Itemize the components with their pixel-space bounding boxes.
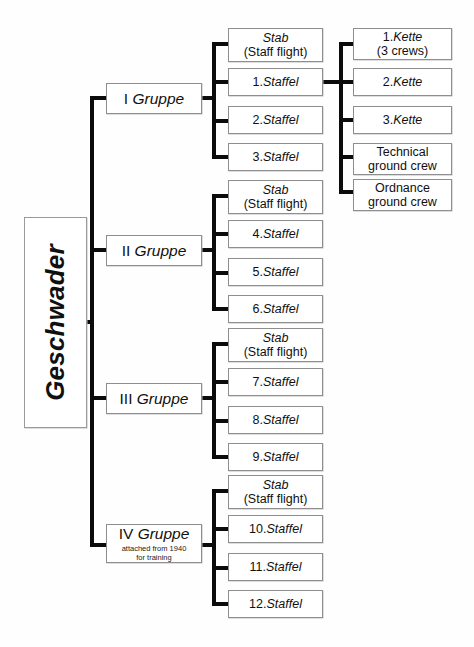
node-staffel-10-num: 10.: [249, 522, 266, 536]
node-iv-stab-line2: (Staff flight): [244, 492, 308, 506]
node-ordnance-ground-crew-line1: Ordnance: [375, 181, 430, 195]
node-staffel-3-num: 3.: [253, 150, 263, 164]
node-ordnance-ground-crew[interactable]: Ordnance ground crew: [353, 179, 452, 211]
node-geschwader-label: Geschwader: [40, 244, 71, 401]
node-staffel-9[interactable]: 9.Staffel: [228, 443, 323, 471]
node-gruppe-ii[interactable]: II Gruppe: [106, 235, 202, 266]
node-geschwader[interactable]: Geschwader: [24, 217, 87, 428]
connector-main-spine: [90, 97, 94, 547]
node-staffel-3-name: Staffel: [263, 150, 298, 164]
node-ii-stab-line1: Stab: [263, 183, 289, 197]
node-staffel-3-label: 3.Staffel: [253, 150, 299, 164]
node-staffel-6-name: Staffel: [263, 302, 298, 316]
node-gruppe-ii-roman: II: [122, 242, 131, 259]
node-ordnance-ground-crew-line2: ground crew: [368, 195, 437, 209]
node-kette-3-title: 3.Kette: [383, 113, 423, 127]
node-kette-2-title: 2.Kette: [383, 75, 423, 89]
node-staffel-5-name: Staffel: [263, 265, 298, 279]
node-staffel-5-num: 5.: [253, 265, 263, 279]
node-staffel-7-num: 7.: [253, 375, 263, 389]
connector-staffel-out: [321, 80, 341, 84]
node-gruppe-iii-title: III Gruppe: [120, 390, 189, 408]
node-staffel-7-label: 7.Staffel: [253, 375, 299, 389]
node-staffel-7[interactable]: 7.Staffel: [228, 368, 323, 396]
node-staffel-1-num: 1.: [253, 75, 263, 89]
node-kette-2-name: Kette: [393, 75, 422, 89]
node-gruppe-iv-roman: IV: [119, 525, 134, 542]
node-staffel-3[interactable]: 3.Staffel: [228, 143, 323, 171]
node-staffel-7-name: Staffel: [263, 375, 298, 389]
node-kette-2[interactable]: 2.Kette: [353, 68, 452, 96]
node-staffel-6-num: 6.: [253, 302, 263, 316]
node-iv-stab-line1: Stab: [263, 478, 289, 492]
node-kette-1-num: 1.: [383, 30, 393, 44]
node-ii-stab-line2: (Staff flight): [244, 197, 308, 211]
node-gruppe-ii-title: II Gruppe: [122, 242, 187, 260]
node-iv-stab[interactable]: Stab (Staff flight): [228, 475, 323, 509]
node-gruppe-iv-note-line2: for training: [122, 553, 187, 563]
node-gruppe-iv-word: Gruppe: [138, 525, 190, 542]
node-iii-stab[interactable]: Stab (Staff flight): [228, 328, 323, 362]
node-staffel-8-label: 8.Staffel: [253, 413, 299, 427]
node-i-stab-line2: (Staff flight): [244, 45, 308, 59]
node-staffel-11-label: 11.Staffel: [250, 560, 302, 574]
node-staffel-4-name: Staffel: [263, 227, 298, 241]
node-gruppe-i-word: Gruppe: [132, 90, 184, 107]
node-staffel-10[interactable]: 10.Staffel: [228, 515, 323, 543]
node-staffel-6[interactable]: 6.Staffel: [228, 295, 323, 323]
node-kette-3-num: 3.: [383, 113, 393, 127]
node-technical-ground-crew-line1: Technical: [376, 145, 428, 159]
node-kette-1[interactable]: 1.Kette (3 crews): [353, 28, 452, 60]
node-staffel-4-num: 4.: [253, 227, 263, 241]
node-gruppe-iii-roman: III: [120, 390, 133, 407]
node-staffel-2-name: Staffel: [263, 113, 298, 127]
connector-gruppe-iii-spine: [212, 342, 216, 459]
node-ii-stab[interactable]: Stab (Staff flight): [228, 180, 323, 214]
node-staffel-4[interactable]: 4.Staffel: [228, 220, 323, 248]
node-staffel-11[interactable]: 11.Staffel: [228, 553, 323, 581]
node-staffel-4-label: 4.Staffel: [253, 227, 299, 241]
node-staffel-1[interactable]: 1.Staffel: [228, 68, 323, 96]
org-chart-canvas: Geschwader I Gruppe II Gruppe III Gruppe…: [0, 0, 474, 647]
node-gruppe-iii[interactable]: III Gruppe: [106, 383, 202, 414]
node-staffel-5-label: 5.Staffel: [253, 265, 299, 279]
node-staffel-2-num: 2.: [253, 113, 263, 127]
node-staffel-2-label: 2.Staffel: [253, 113, 299, 127]
node-kette-2-num: 2.: [383, 75, 393, 89]
node-gruppe-iv-note: attached from 1940 for training: [122, 544, 187, 563]
node-staffel-9-num: 9.: [253, 450, 263, 464]
node-gruppe-i[interactable]: I Gruppe: [106, 83, 202, 114]
node-technical-ground-crew[interactable]: Technical ground crew: [353, 143, 452, 175]
node-staffel-5[interactable]: 5.Staffel: [228, 258, 323, 286]
connector-gruppe-ii-spine: [212, 194, 216, 311]
node-staffel-12-label: 12.Staffel: [249, 597, 302, 611]
node-kette-3[interactable]: 3.Kette: [353, 106, 452, 134]
node-iii-stab-line2: (Staff flight): [244, 345, 308, 359]
node-staffel-8[interactable]: 8.Staffel: [228, 406, 323, 434]
node-staffel-8-name: Staffel: [263, 413, 298, 427]
connector-gruppe-i-spine: [212, 42, 216, 159]
node-staffel-11-num: 11.: [250, 560, 266, 574]
node-kette-1-sub: (3 crews): [377, 44, 428, 58]
node-staffel-2[interactable]: 2.Staffel: [228, 106, 323, 134]
node-gruppe-ii-word: Gruppe: [135, 242, 187, 259]
node-staffel-10-name: Staffel: [266, 522, 301, 536]
node-technical-ground-crew-line2: ground crew: [368, 159, 437, 173]
node-iii-stab-line1: Stab: [263, 331, 289, 345]
node-staffel-8-num: 8.: [253, 413, 263, 427]
node-staffel-12-name: Staffel: [266, 597, 301, 611]
node-gruppe-iii-word: Gruppe: [137, 390, 189, 407]
node-gruppe-iv[interactable]: IV Gruppe attached from 1940 for trainin…: [106, 524, 202, 563]
connector-gruppe-iv-spine: [212, 489, 216, 606]
node-staffel-1-label: 1.Staffel: [253, 75, 299, 89]
node-gruppe-iv-title: IV Gruppe: [119, 525, 190, 543]
node-staffel-9-name: Staffel: [263, 450, 298, 464]
node-kette-1-name: Kette: [393, 30, 422, 44]
node-staffel-6-label: 6.Staffel: [253, 302, 299, 316]
node-gruppe-i-title: I Gruppe: [124, 90, 184, 108]
node-i-stab[interactable]: Stab (Staff flight): [228, 28, 323, 62]
node-kette-3-name: Kette: [393, 113, 422, 127]
node-staffel-10-label: 10.Staffel: [249, 522, 302, 536]
node-staffel-12[interactable]: 12.Staffel: [228, 590, 323, 618]
node-gruppe-iv-note-line1: attached from 1940: [122, 544, 187, 554]
